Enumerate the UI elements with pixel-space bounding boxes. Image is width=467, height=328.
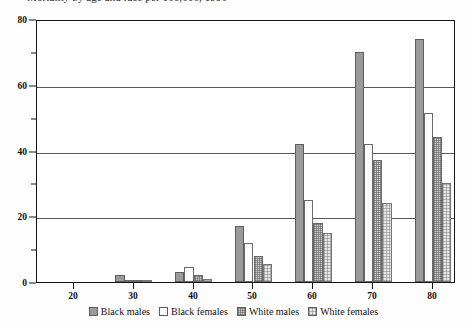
bar-40-white-males: [194, 275, 203, 282]
bar-40-white-females: [203, 279, 212, 282]
x-axis-label-60: 60: [307, 291, 317, 301]
bar-40-black-females: [184, 267, 193, 282]
bar-50-white-females: [263, 264, 272, 282]
x-axis-label-30: 30: [128, 291, 138, 301]
legend-item-black-females[interactable]: Black females: [159, 306, 228, 317]
y-axis-label-60: 60: [18, 81, 28, 91]
x-axis-label-40: 40: [188, 291, 198, 301]
legend-swatch-icon: [237, 307, 246, 316]
x-tick-70: [372, 283, 373, 289]
x-tick-60: [312, 283, 313, 289]
bar-40-black-males: [175, 272, 184, 282]
chart-title: Mortality by age and race per 100,000, 1…: [27, 0, 227, 3]
bar-80-black-males: [415, 39, 424, 282]
legend-item-black-males[interactable]: Black males: [89, 306, 150, 317]
bar-30-white-females: [143, 280, 152, 282]
y-tick-40: [29, 151, 36, 152]
bar-80-white-females: [442, 183, 451, 282]
legend-label: White males: [249, 306, 299, 317]
x-tick-20: [73, 283, 74, 289]
y-tick-60: [29, 85, 36, 86]
x-axis-label-50: 50: [247, 291, 257, 301]
bar-50-white-males: [254, 256, 263, 282]
y-axis-label-20: 20: [18, 212, 28, 222]
y-axis-label-40: 40: [18, 147, 28, 157]
legend-swatch-icon: [308, 307, 317, 316]
bar-70-black-females: [364, 144, 373, 282]
legend-item-white-females[interactable]: White females: [308, 306, 378, 317]
x-tick-80: [432, 283, 433, 289]
x-axis-label-20: 20: [68, 291, 78, 301]
legend-swatch-icon: [89, 307, 98, 316]
bar-80-white-males: [433, 137, 442, 282]
bar-60-black-females: [304, 200, 313, 282]
x-axis-label-80: 80: [427, 291, 437, 301]
y-axis-label-0: 0: [22, 278, 27, 288]
bar-70-black-males: [355, 52, 364, 282]
y-axis: 020406080: [0, 0, 36, 328]
y-tick-80: [29, 20, 36, 21]
bar-60-black-males: [295, 144, 304, 282]
bar-chart-figure: Mortality by age and race per 100,000, 1…: [0, 0, 467, 328]
legend-swatch-icon: [159, 307, 168, 316]
gridline-40: [37, 153, 454, 154]
legend-label: Black males: [101, 306, 150, 317]
bar-60-white-females: [323, 233, 332, 282]
chart-title-clipped: Mortality by age and race per 100,000, 1…: [0, 0, 467, 11]
y-tick-0: [29, 283, 36, 284]
x-axis-label-70: 70: [367, 291, 377, 301]
plot-area: [36, 20, 455, 283]
gridline-60: [37, 87, 454, 88]
x-tick-40: [193, 283, 194, 289]
bar-70-white-females: [382, 203, 391, 282]
y-axis-label-80: 80: [18, 15, 28, 25]
bar-30-white-males: [134, 280, 143, 282]
legend-label: Black females: [171, 306, 228, 317]
bar-50-black-males: [235, 226, 244, 282]
bar-70-white-males: [373, 160, 382, 282]
legend-item-white-males[interactable]: White males: [237, 306, 299, 317]
bar-60-white-males: [313, 223, 322, 282]
x-tick-30: [133, 283, 134, 289]
y-tick-20: [29, 217, 36, 218]
bar-30-black-males: [115, 275, 124, 282]
bar-30-black-females: [125, 280, 134, 282]
legend-label: White females: [320, 306, 378, 317]
x-tick-50: [252, 283, 253, 289]
bar-50-black-females: [244, 243, 253, 282]
bar-80-black-females: [424, 113, 433, 282]
chart-legend: Black malesBlack femalesWhite malesWhite…: [0, 306, 467, 317]
